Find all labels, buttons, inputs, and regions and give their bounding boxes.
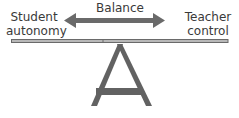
arrow-head-right-icon — [153, 13, 165, 28]
fulcrum-crossbar — [96, 88, 142, 95]
seesaw-plank — [12, 40, 104, 43]
balance-title: Balance — [96, 1, 144, 15]
left-label-line-1: Student — [6, 10, 62, 24]
fulcrum — [91, 44, 152, 106]
left-label-line-2: autonomy — [6, 24, 62, 38]
fulcrum-left-leg — [91, 44, 123, 106]
seesaw-plank-right — [103, 40, 228, 43]
teacher-control-label: Teacher control — [183, 10, 233, 38]
balance-label: Balance — [90, 1, 150, 15]
right-label-line-1: Teacher — [183, 10, 233, 24]
double-arrow — [64, 13, 165, 28]
arrow-shaft — [74, 18, 154, 23]
student-autonomy-label: Student autonomy — [6, 10, 62, 38]
fulcrum-right-leg — [117, 44, 152, 106]
right-label-line-2: control — [183, 24, 233, 38]
